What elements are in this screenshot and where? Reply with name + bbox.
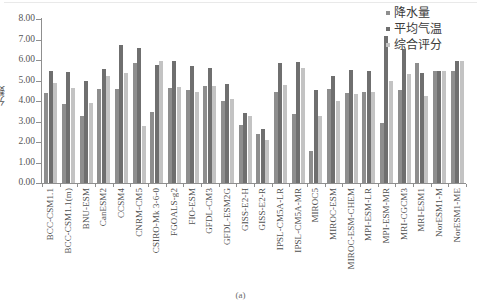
y-tick-mark	[36, 122, 41, 123]
y-tick-mark	[36, 101, 41, 102]
bar	[460, 61, 464, 183]
bar	[89, 103, 93, 183]
y-tick-mark	[36, 142, 41, 143]
y-tick-label: 1.00	[18, 158, 35, 168]
bar	[102, 69, 106, 183]
bar	[437, 71, 441, 183]
bar	[331, 76, 335, 183]
x-tick-mark	[448, 184, 449, 187]
x-tick-label: MIROC-ESM	[329, 188, 338, 240]
legend-label: 降水量	[394, 7, 430, 19]
y-tick-mark	[36, 81, 41, 82]
bar	[424, 96, 428, 183]
bar	[309, 151, 313, 183]
bar	[345, 93, 349, 183]
x-tick-mark	[431, 184, 432, 187]
y-tick-label: 3.00	[18, 117, 35, 127]
bar	[230, 99, 234, 183]
bar	[398, 90, 402, 183]
bar	[221, 101, 225, 183]
x-tick-mark	[166, 184, 167, 187]
bar	[420, 73, 424, 183]
bar	[433, 71, 437, 183]
bar	[49, 71, 53, 183]
bar-group	[183, 19, 201, 183]
bar	[115, 89, 119, 183]
bar	[371, 92, 375, 183]
x-tick-mark	[236, 184, 237, 187]
bar	[239, 125, 243, 183]
bar	[62, 104, 66, 183]
bar-group	[42, 19, 60, 183]
bar	[389, 81, 393, 184]
bar	[451, 71, 455, 183]
bar	[124, 73, 128, 183]
bar	[71, 88, 75, 183]
x-tick-label: GFDL-CM3	[205, 188, 214, 234]
bar	[455, 61, 459, 183]
bar	[442, 71, 446, 183]
bar	[159, 61, 163, 183]
bar	[301, 68, 305, 183]
figure-container: 0.001.002.003.004.005.006.007.008.00 分数 …	[0, 0, 481, 308]
bar	[150, 112, 154, 183]
x-tick-mark	[272, 184, 273, 187]
x-tick-mark	[201, 184, 202, 187]
bar-group	[130, 19, 148, 183]
bar	[415, 63, 419, 183]
y-axis-tick-labels: 0.001.002.003.004.005.006.007.008.00	[0, 0, 42, 200]
legend-swatch-icon	[386, 11, 390, 15]
x-tick-label: CSIRO-Mk 3-6-0	[152, 188, 161, 253]
y-tick-label: 2.00	[18, 137, 35, 147]
bar	[190, 66, 194, 183]
x-tick-label: GISS-E2-H	[241, 188, 250, 231]
legend-swatch-icon	[386, 43, 390, 47]
y-tick-mark	[36, 19, 41, 20]
x-tick-label: NorESM1-ME	[453, 188, 462, 243]
scan-edge-line	[4, 2, 477, 3]
bar	[53, 83, 57, 183]
bar	[212, 86, 216, 183]
bar	[155, 65, 159, 183]
bar-group	[201, 19, 219, 183]
bar	[142, 126, 146, 183]
legend-swatch-icon	[386, 27, 390, 31]
x-tick-mark	[395, 184, 396, 187]
y-tick-label: 7.00	[18, 35, 35, 45]
bar	[384, 36, 388, 183]
bar	[402, 49, 406, 183]
y-tick-label: 0.00	[18, 178, 35, 188]
bar	[172, 61, 176, 183]
x-tick-mark	[60, 184, 61, 187]
bar	[186, 90, 190, 183]
bar	[296, 62, 300, 183]
bar	[349, 70, 353, 183]
legend-item[interactable]: 平均气温	[386, 21, 478, 36]
legend-label: 综合评分	[394, 39, 442, 51]
bar	[248, 116, 252, 183]
y-axis-title: 分数	[0, 86, 6, 106]
bar	[283, 85, 287, 183]
legend-item[interactable]: 降水量	[386, 5, 478, 20]
bar	[133, 63, 137, 183]
bar	[203, 86, 207, 183]
bar	[177, 87, 181, 183]
legend-item[interactable]: 综合评分	[386, 37, 478, 52]
x-tick-mark	[254, 184, 255, 187]
x-tick-mark	[360, 184, 361, 187]
bar	[278, 63, 282, 183]
bar	[314, 90, 318, 183]
x-tick-mark	[148, 184, 149, 187]
x-tick-mark	[130, 184, 131, 187]
y-tick-label: 5.00	[18, 76, 35, 86]
bar-group	[254, 19, 272, 183]
bar	[208, 68, 212, 183]
x-tick-label: MPI-ESM-LR	[364, 188, 373, 241]
bar-group	[148, 19, 166, 183]
x-tick-mark	[42, 184, 43, 187]
bar-group	[325, 19, 343, 183]
x-tick-label: CanESM2	[99, 188, 108, 226]
bar	[66, 72, 70, 183]
bar	[168, 88, 172, 183]
x-tick-label: MPI-ESM-MR	[382, 188, 391, 244]
